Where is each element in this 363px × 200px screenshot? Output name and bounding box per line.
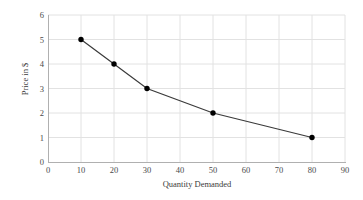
demand-series xyxy=(48,15,345,162)
data-point xyxy=(144,86,149,91)
y-tick-label: 1 xyxy=(40,133,44,142)
data-point xyxy=(111,61,116,66)
x-tick-label: 70 xyxy=(275,166,284,175)
x-axis-title: Quantity Demanded xyxy=(48,179,346,189)
y-axis-title: Price in $ xyxy=(20,29,30,129)
y-tick-label: 3 xyxy=(40,84,44,93)
x-tick-label: 90 xyxy=(341,166,350,175)
y-tick-label: 2 xyxy=(40,109,44,118)
x-tick-label: 20 xyxy=(110,166,119,175)
data-point xyxy=(309,135,314,140)
x-tick-label: 30 xyxy=(143,166,152,175)
demand-curve-chart: 0102030405060708090 0123456 Quantity Dem… xyxy=(0,0,363,200)
x-tick-label: 80 xyxy=(308,166,317,175)
x-tick-label: 40 xyxy=(176,166,185,175)
x-tick-label: 0 xyxy=(46,166,50,175)
y-tick-label: 4 xyxy=(40,60,44,69)
data-point xyxy=(78,37,83,42)
data-point xyxy=(210,110,215,115)
y-tick-label: 6 xyxy=(40,11,44,20)
y-tick-label: 5 xyxy=(40,35,44,44)
x-axis-line xyxy=(48,162,346,163)
x-tick-label: 60 xyxy=(242,166,251,175)
y-tick-label: 0 xyxy=(40,158,44,167)
plot-area xyxy=(48,15,345,162)
y-axis-line xyxy=(48,15,49,163)
x-tick-label: 50 xyxy=(209,166,218,175)
x-tick-label: 10 xyxy=(77,166,86,175)
